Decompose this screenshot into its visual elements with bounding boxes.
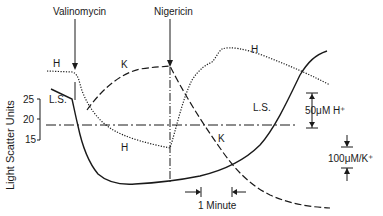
time-scale-bar [185,187,246,197]
h-label-left: H [53,58,60,69]
nigericin-arrow-icon [167,19,173,67]
y-tick-25: 25 [23,94,35,105]
nigericin-label: Nigericin [154,6,193,17]
y-tick-20: 20 [23,114,35,125]
light-scatter-curve [51,51,327,184]
valinomycin-label: Valinomycin [53,6,106,17]
ls-label-right: L.S. [253,102,271,113]
ls-label-left: L.S. [49,94,67,105]
h-label-bottom: H [121,142,128,153]
diagram-canvas: Light Scatter Units 25 20 15 Valinomycin… [0,0,383,216]
k-label-bottom: K [218,133,225,144]
k-label-top: K [121,59,128,70]
y-axis [37,99,40,140]
y-axis-label: Light Scatter Units [4,100,16,190]
y-tick-15: 15 [25,134,37,145]
h-curve [47,48,330,148]
valinomycin-arrow-icon [72,19,78,70]
time-scale-label: 1 Minute [198,200,237,211]
h-scale-label: 50μM H⁺ [305,105,345,116]
k-scale-label: 100μM/K⁺ [328,153,373,164]
h-label-right: H [251,44,258,55]
